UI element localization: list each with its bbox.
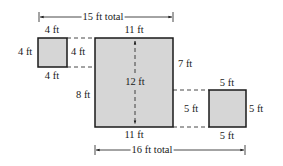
- large-rect-right-label: 7 ft: [177, 58, 193, 70]
- bottom-total-label: 16 ft total: [131, 144, 174, 156]
- right-square-bottom-label: 5 ft: [219, 130, 235, 142]
- small-square-left-label: 4 ft: [17, 46, 33, 58]
- right-square-right-label: 5 ft: [248, 103, 264, 115]
- right-square: [209, 90, 246, 127]
- large-rect-bottom-label: 11 ft: [123, 129, 144, 141]
- small-square-top-label: 4 ft: [44, 24, 60, 36]
- large-rect-height-label: 12 ft: [124, 76, 146, 88]
- large-rect-left-label: 8 ft: [75, 89, 91, 101]
- small-square-bottom-label: 4 ft: [44, 70, 60, 82]
- right-square-top-label: 5 ft: [219, 77, 235, 89]
- small-square-right-label: 4 ft: [70, 46, 86, 58]
- top-total-label: 15 ft total: [82, 11, 125, 23]
- large-rect-top-label: 11 ft: [123, 24, 144, 36]
- right-square-left-label: 5 ft: [183, 103, 199, 115]
- small-square: [38, 38, 67, 67]
